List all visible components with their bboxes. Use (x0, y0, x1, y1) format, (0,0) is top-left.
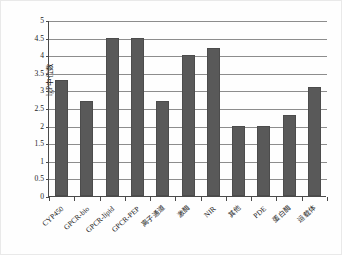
gridline (49, 21, 327, 22)
x-tick-label: 激酶 (176, 205, 191, 220)
y-tick-mark (46, 91, 50, 92)
bar (55, 80, 68, 196)
y-tick-label: 3 (18, 87, 44, 95)
x-tick-label: PDE (252, 205, 267, 220)
bar (131, 38, 144, 196)
x-tick-mark (226, 197, 227, 201)
y-tick-label: 1 (18, 158, 44, 166)
x-tick-mark (302, 197, 303, 201)
x-tick-label: 其他 (227, 205, 242, 220)
x-tick-mark (100, 197, 101, 201)
x-tick-label: NIR (202, 205, 216, 219)
x-tick-mark (201, 197, 202, 201)
y-tick-mark (46, 109, 50, 110)
bar (182, 55, 195, 196)
x-tick-mark (49, 197, 50, 201)
y-tick-label: 0.5 (18, 175, 44, 183)
bar (308, 87, 321, 196)
y-tick-mark (46, 127, 50, 128)
y-tick-label: 2 (18, 123, 44, 131)
y-tick-mark (46, 162, 50, 163)
gridline (49, 39, 327, 40)
x-tick-label: 运载体 (297, 205, 317, 224)
x-tick-mark (175, 197, 176, 201)
x-tick-mark (150, 197, 151, 201)
y-tick-mark (46, 56, 50, 57)
y-tick-label: 1.5 (18, 140, 44, 148)
y-tick-mark (46, 179, 50, 180)
y-tick-mark (46, 144, 50, 145)
bar (106, 38, 119, 196)
y-tick-label: 4.5 (18, 35, 44, 43)
x-tick-mark (74, 197, 75, 201)
x-tick-mark (327, 197, 328, 201)
x-tick-label: 离子通道 (141, 205, 166, 229)
x-tick-mark (125, 197, 126, 201)
y-tick-label: 5 (18, 17, 44, 25)
x-tick-label: 蛋白酶 (272, 205, 292, 224)
y-tick-mark (46, 39, 50, 40)
bar (80, 101, 93, 196)
y-tick-label: 4 (18, 52, 44, 60)
y-tick-label: 0 (18, 193, 44, 201)
y-tick-label: 2.5 (18, 105, 44, 113)
x-tick-mark (251, 197, 252, 201)
y-tick-label: 3.5 (18, 70, 44, 78)
bar (207, 48, 220, 196)
y-tick-mark (46, 21, 50, 22)
y-tick-mark (46, 74, 50, 75)
bar (156, 101, 169, 196)
bar (232, 126, 245, 196)
bar (257, 126, 270, 196)
x-tick-mark (276, 197, 277, 201)
chart-figure: lgP中位数 00.511.522.533.544.55 CYP450GPCR-… (0, 0, 342, 255)
plot-area (48, 21, 326, 197)
bar (283, 115, 296, 196)
